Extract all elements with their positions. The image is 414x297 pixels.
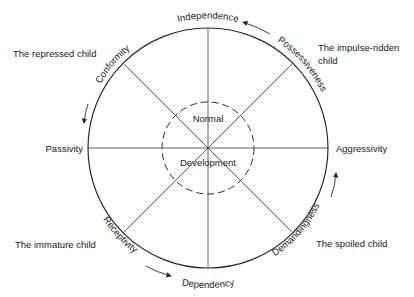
- caption-immature-child: The immature child: [15, 239, 96, 250]
- center-label-normal: Normal: [193, 113, 224, 124]
- arrow-right-icon: [331, 173, 336, 197]
- caption-spoiled-child: The spoiled child: [316, 238, 387, 249]
- arrow-left-icon: [84, 104, 88, 123]
- center-label-development: Development: [180, 157, 236, 168]
- caption-repressed-child: The repressed child: [13, 48, 96, 59]
- axis-label-dependency: Dependency: [181, 276, 235, 290]
- axis-label-demandingness: Demandingness: [270, 201, 322, 258]
- caption-impulse-ridden-child-line2: child: [318, 55, 338, 66]
- axis-label-receptivity: Receptivity: [101, 214, 140, 255]
- axis-label-independence: Independence: [176, 9, 240, 24]
- axis-label-aggressivity: Aggressivity: [336, 143, 387, 154]
- caption-impulse-ridden-child-line1: The impulse-ridden: [318, 42, 399, 53]
- arrow-upper-right-icon: [243, 22, 270, 34]
- axis-label-conformity: Conformity: [93, 42, 132, 85]
- normal-development-diagram: Normal Development Passivity Aggressivit…: [0, 0, 414, 297]
- axis-label-passivity: Passivity: [46, 143, 84, 154]
- arrow-lower-left-icon: [146, 266, 171, 276]
